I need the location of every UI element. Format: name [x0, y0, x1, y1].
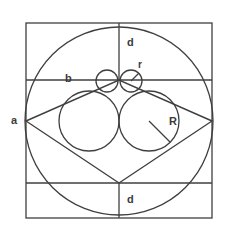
label-radius-small-r: r	[138, 60, 142, 70]
geometry-canvas	[0, 0, 226, 237]
label-side-a: a	[11, 115, 17, 126]
rhombus	[26, 80, 212, 183]
large-circle-left	[59, 91, 119, 151]
radius-line-large-R	[149, 121, 170, 142]
label-offset-bottom-d: d	[127, 194, 134, 205]
label-radius-large-R: R	[169, 116, 177, 127]
geometry-diagram: a b d d R r	[0, 0, 226, 237]
small-circle-left	[96, 70, 118, 92]
label-offset-top-d: d	[127, 37, 134, 48]
label-side-b: b	[65, 73, 72, 84]
